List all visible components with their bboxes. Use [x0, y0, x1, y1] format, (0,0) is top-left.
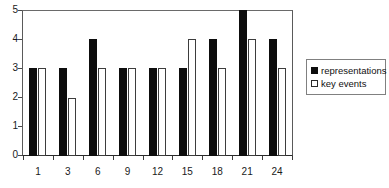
bar-key-events [98, 68, 106, 156]
bar-representations [89, 39, 97, 156]
bar-group [29, 10, 46, 156]
y-tick-label-1: 1 [0, 121, 18, 131]
x-axis: 13691215182124 [0, 166, 389, 180]
x-tick-label: 18 [204, 166, 230, 177]
bar-representations [29, 68, 37, 156]
bar-group [239, 10, 256, 156]
y-tick-label-0: 0 [0, 150, 18, 160]
bar-representations [59, 68, 67, 156]
y-tick-label-2: 2 [0, 92, 18, 102]
y-tick-label-4: 4 [0, 34, 18, 44]
x-tick-mark [292, 156, 293, 160]
x-tick-mark [113, 156, 114, 160]
legend-label-representations: representations [321, 65, 386, 76]
bar-key-events [278, 68, 286, 156]
x-tick-mark [262, 156, 263, 160]
x-tick-mark [53, 156, 54, 160]
x-tick-mark [172, 156, 173, 160]
bar-key-events [218, 68, 226, 156]
bar-group [149, 10, 166, 156]
bar-series-layer [23, 10, 292, 156]
bar-representations [239, 10, 247, 156]
bar-group [119, 10, 136, 156]
bar-representations [119, 68, 127, 156]
bar-group [179, 10, 196, 156]
bar-representations [149, 68, 157, 156]
x-tick-label: 24 [264, 166, 290, 177]
x-tick-mark [232, 156, 233, 160]
x-tick-mark [143, 156, 144, 160]
legend: representations key events [306, 59, 386, 95]
bar-key-events [128, 68, 136, 156]
bar-chart: 5 4 3 2 1 0 13691215182124 representatio… [0, 0, 389, 188]
x-tick-label: 1 [25, 166, 51, 177]
x-tick-label: 6 [85, 166, 111, 177]
legend-swatch-hollow-square-icon [311, 80, 318, 87]
bar-key-events [188, 39, 196, 156]
bar-key-events [158, 68, 166, 156]
x-tick-label: 21 [234, 166, 260, 177]
bar-group [209, 10, 226, 156]
bar-key-events [38, 68, 46, 156]
bar-representations [269, 39, 277, 156]
bar-group [59, 10, 76, 156]
y-tick-label-3: 3 [0, 63, 18, 73]
legend-item-representations[interactable]: representations [311, 64, 382, 77]
x-tick-label: 3 [55, 166, 81, 177]
x-tick-mark [202, 156, 203, 160]
x-tick-label: 9 [115, 166, 141, 177]
x-tick-mark [23, 156, 24, 160]
bar-key-events [248, 39, 256, 156]
y-tick-label-5: 5 [0, 5, 18, 15]
bar-representations [209, 39, 217, 156]
y-axis: 5 4 3 2 1 0 [0, 0, 18, 188]
bar-group [269, 10, 286, 156]
bar-representations [179, 68, 187, 156]
legend-swatch-filled-square-icon [311, 67, 318, 74]
x-tick-mark [83, 156, 84, 160]
bar-key-events [68, 98, 76, 156]
legend-item-key-events[interactable]: key events [311, 77, 382, 90]
bar-group [89, 10, 106, 156]
x-tick-label: 12 [145, 166, 171, 177]
x-tick-label: 15 [174, 166, 200, 177]
legend-label-key-events: key events [321, 78, 366, 89]
